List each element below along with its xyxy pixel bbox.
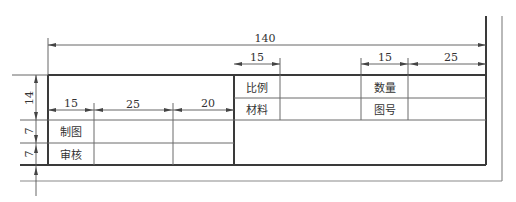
checked-by-label: 审核 [60,146,82,162]
dimension-text-140: 140 [255,32,276,45]
dimension-text-25a: 25 [444,51,458,64]
arrow-icon [34,135,38,143]
arrow-icon [34,75,38,83]
scale-label: 比例 [246,79,268,95]
dimension-text-25b: 25 [126,98,140,111]
material-label: 材料 [246,101,268,117]
arrow-icon [226,108,234,112]
arrow-icon [95,108,103,112]
drawn-by-label: 制图 [60,123,82,139]
arrow-icon [478,43,486,47]
arrow-icon [410,62,418,66]
drawing-number-label: 图号 [374,101,396,117]
arrow-icon [361,62,369,66]
arrow-icon [48,108,56,112]
arrow-icon [48,43,56,47]
quantity-label: 数量 [374,79,396,95]
dimension-text-20: 20 [201,97,215,110]
arrow-icon [400,62,408,66]
arrow-icon [174,108,182,112]
dimension-text-15b: 15 [378,51,392,64]
arrow-icon [34,167,38,175]
arrow-icon [164,108,172,112]
arrow-icon [85,108,93,112]
dimension-text-15a: 15 [250,51,264,64]
dimension-text-14: 14 [23,91,36,105]
dimension-text-7b: 7 [23,151,36,158]
dimension-text-15c: 15 [64,97,78,110]
arrow-icon [34,112,38,120]
arrow-icon [272,62,280,66]
dimension-text-7a: 7 [23,128,36,135]
arrow-icon [234,62,242,66]
arrow-icon [478,62,486,66]
